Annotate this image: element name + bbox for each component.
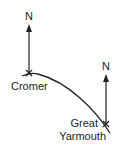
cromer-label: Cromer [11, 80, 48, 92]
north-label: N [102, 60, 110, 72]
great-yarmouth-label-line2: Yarmouth [59, 130, 106, 142]
north-arrowhead-icon [26, 24, 32, 32]
cromer-north-arrow: N [25, 10, 33, 73]
north-arrowhead-icon [103, 74, 109, 82]
great-yarmouth-label-line1: Great [70, 117, 98, 129]
north-label: N [25, 10, 33, 22]
great-yarmouth-north-arrow: N [102, 60, 110, 124]
bearing-diagram: N Cromer N Great Yarmouth [0, 0, 119, 146]
